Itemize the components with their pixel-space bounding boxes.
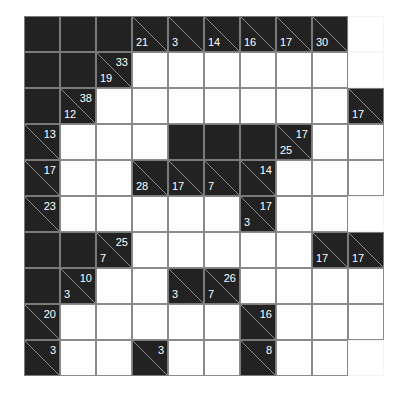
- entry-cell[interactable]: [60, 340, 96, 376]
- entry-cell[interactable]: [276, 268, 312, 304]
- clue-cell: 13: [24, 124, 60, 160]
- entry-cell[interactable]: [204, 196, 240, 232]
- entry-cell[interactable]: [96, 340, 132, 376]
- entry-cell[interactable]: [132, 196, 168, 232]
- clue-cell: 267: [204, 268, 240, 304]
- entry-cell[interactable]: [312, 196, 348, 232]
- clue-cell: 14: [240, 160, 276, 196]
- entry-cell[interactable]: [276, 232, 312, 268]
- entry-cell[interactable]: [240, 88, 276, 124]
- down-clue-number: 28: [136, 181, 148, 192]
- entry-cell[interactable]: [132, 232, 168, 268]
- down-clue-number: 17: [352, 109, 364, 120]
- down-clue-number: 12: [64, 109, 76, 120]
- down-clue-number: 17: [352, 253, 364, 264]
- entry-cell[interactable]: [312, 268, 348, 304]
- down-clue-number: 19: [100, 73, 112, 84]
- clue-cell: 30: [312, 16, 348, 52]
- blocked-cell: [24, 16, 60, 52]
- clue-cell: 8: [240, 340, 276, 376]
- entry-cell[interactable]: [132, 124, 168, 160]
- entry-cell[interactable]: [348, 52, 384, 88]
- clue-cell: 103: [60, 268, 96, 304]
- clue-cell: 3: [24, 340, 60, 376]
- entry-cell[interactable]: [96, 160, 132, 196]
- entry-cell[interactable]: [132, 52, 168, 88]
- down-clue-number: 3: [172, 37, 178, 48]
- down-clue-number: 14: [208, 37, 220, 48]
- entry-cell[interactable]: [348, 160, 384, 196]
- entry-cell[interactable]: [168, 232, 204, 268]
- clue-cell: 3319: [96, 52, 132, 88]
- entry-cell[interactable]: [204, 232, 240, 268]
- entry-cell[interactable]: [348, 340, 384, 376]
- clue-cell: 173: [240, 196, 276, 232]
- entry-cell[interactable]: [276, 340, 312, 376]
- blocked-cell: [24, 52, 60, 88]
- entry-cell[interactable]: [348, 268, 384, 304]
- across-clue-number: 20: [44, 309, 56, 320]
- clue-cell: 23: [24, 196, 60, 232]
- entry-cell[interactable]: [60, 304, 96, 340]
- entry-cell[interactable]: [168, 304, 204, 340]
- entry-cell[interactable]: [240, 268, 276, 304]
- entry-cell[interactable]: [96, 268, 132, 304]
- entry-cell[interactable]: [60, 196, 96, 232]
- entry-cell[interactable]: [168, 52, 204, 88]
- entry-cell[interactable]: [96, 88, 132, 124]
- entry-cell[interactable]: [348, 196, 384, 232]
- clue-cell: 16: [240, 304, 276, 340]
- entry-cell[interactable]: [348, 124, 384, 160]
- entry-cell[interactable]: [276, 88, 312, 124]
- clue-cell: 17: [24, 160, 60, 196]
- across-clue-number: 33: [116, 57, 128, 68]
- clue-cell: 17: [276, 16, 312, 52]
- entry-cell[interactable]: [276, 304, 312, 340]
- blocked-cell: [24, 88, 60, 124]
- entry-cell[interactable]: [348, 304, 384, 340]
- entry-cell[interactable]: [312, 340, 348, 376]
- entry-cell[interactable]: [132, 88, 168, 124]
- entry-cell[interactable]: [204, 304, 240, 340]
- entry-cell[interactable]: [168, 340, 204, 376]
- blocked-cell: [60, 52, 96, 88]
- clue-cell: 3812: [60, 88, 96, 124]
- entry-cell[interactable]: [60, 160, 96, 196]
- entry-cell[interactable]: [276, 160, 312, 196]
- entry-cell[interactable]: [204, 88, 240, 124]
- entry-cell[interactable]: [312, 52, 348, 88]
- blocked-cell: [204, 124, 240, 160]
- entry-cell[interactable]: [276, 196, 312, 232]
- entry-cell[interactable]: [132, 304, 168, 340]
- across-clue-number: 17: [44, 165, 56, 176]
- entry-cell[interactable]: [96, 124, 132, 160]
- across-clue-number: 3: [50, 345, 56, 356]
- entry-cell[interactable]: [348, 16, 384, 52]
- entry-cell[interactable]: [240, 232, 276, 268]
- entry-cell[interactable]: [132, 268, 168, 304]
- entry-cell[interactable]: [204, 340, 240, 376]
- kakuro-board: 2131416173033193812171317251728177142317…: [24, 16, 384, 376]
- blocked-cell: [96, 16, 132, 52]
- entry-cell[interactable]: [168, 196, 204, 232]
- down-clue-number: 17: [280, 37, 292, 48]
- entry-cell[interactable]: [312, 124, 348, 160]
- down-clue-number: 3: [244, 217, 250, 228]
- down-clue-number: 25: [280, 145, 292, 156]
- blocked-cell: [24, 232, 60, 268]
- entry-cell[interactable]: [168, 88, 204, 124]
- entry-cell[interactable]: [312, 88, 348, 124]
- entry-cell[interactable]: [240, 52, 276, 88]
- entry-cell[interactable]: [60, 124, 96, 160]
- clue-cell: 3: [168, 268, 204, 304]
- across-clue-number: 3: [158, 345, 164, 356]
- entry-cell[interactable]: [312, 304, 348, 340]
- entry-cell[interactable]: [276, 52, 312, 88]
- entry-cell[interactable]: [96, 304, 132, 340]
- entry-cell[interactable]: [96, 196, 132, 232]
- across-clue-number: 25: [116, 237, 128, 248]
- entry-cell[interactable]: [204, 52, 240, 88]
- down-clue-number: 7: [208, 181, 214, 192]
- down-clue-number: 7: [208, 289, 214, 300]
- entry-cell[interactable]: [312, 160, 348, 196]
